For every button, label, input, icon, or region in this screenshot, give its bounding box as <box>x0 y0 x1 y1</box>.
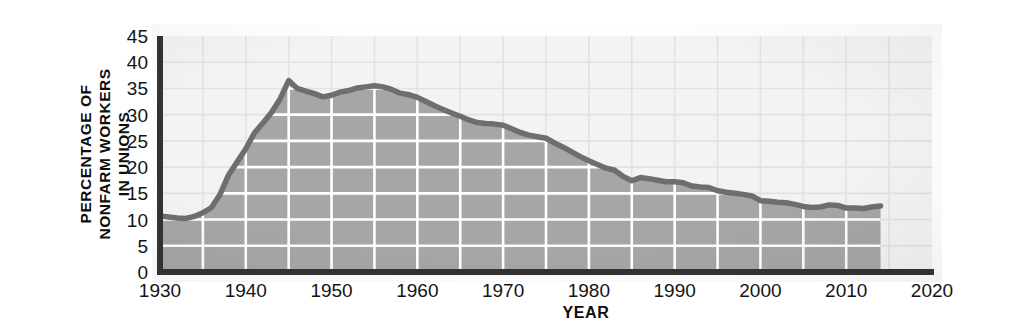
y-axis-title: PERCENTAGE OFNONFARM WORKERSIN UNIONS <box>77 68 132 239</box>
x-tick-label: 1930 <box>139 280 181 301</box>
x-axis-title: YEAR <box>563 304 610 321</box>
y-tick-label: 35 <box>127 78 148 99</box>
y-tick-label: 10 <box>127 210 148 231</box>
x-tick-label: 2000 <box>739 280 781 301</box>
y-axis-title-line: IN UNIONS <box>115 112 132 197</box>
x-tick-label: 1960 <box>396 280 438 301</box>
chart-figure: 051015202530354045 193019401950196019701… <box>0 0 1016 333</box>
y-axis-title-line: NONFARM WORKERS <box>96 68 113 239</box>
y-tick-label: 45 <box>127 26 148 47</box>
union-membership-area-chart: 051015202530354045 193019401950196019701… <box>0 0 1016 333</box>
y-tick-label: 5 <box>137 236 148 257</box>
x-tick-label: 1990 <box>654 280 696 301</box>
x-axis-tick-labels: 1930194019501960197019801990200020102020 <box>139 280 953 301</box>
x-tick-label: 2020 <box>911 280 953 301</box>
x-tick-label: 1970 <box>482 280 524 301</box>
x-tick-label: 1940 <box>225 280 267 301</box>
y-axis-title-line: PERCENTAGE OF <box>77 85 94 224</box>
x-tick-label: 2010 <box>825 280 867 301</box>
x-tick-label: 1980 <box>568 280 610 301</box>
y-tick-label: 40 <box>127 52 148 73</box>
x-tick-label: 1950 <box>310 280 352 301</box>
